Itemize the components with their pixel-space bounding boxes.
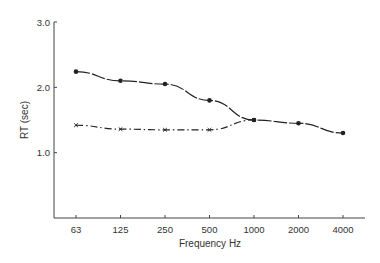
y-tick-label: 3.0	[37, 17, 50, 28]
y-tick-label: 2.0	[37, 82, 50, 93]
data-point-dot	[163, 82, 168, 87]
x-tick-label: 250	[157, 224, 173, 235]
axis-ticks: 1.02.03.063125250500100020004000	[37, 17, 354, 236]
data-series	[74, 69, 346, 135]
x-tick-label: 4000	[332, 224, 353, 235]
x-axis-label: Frequency Hz	[179, 238, 241, 249]
x-tick-label: 2000	[288, 224, 309, 235]
series-line-1	[76, 120, 254, 130]
x-tick-label: 500	[202, 224, 218, 235]
rt-frequency-chart: 1.02.03.063125250500100020004000 Frequen…	[0, 0, 380, 263]
x-tick-label: 125	[113, 224, 129, 235]
y-axis-label: RT (sec)	[19, 101, 30, 139]
x-tick-label: 63	[71, 224, 82, 235]
data-point-dot	[296, 121, 301, 126]
data-point-dot	[118, 79, 123, 84]
x-tick-label: 1000	[243, 224, 264, 235]
data-point-dot	[74, 69, 79, 74]
data-point-dot	[341, 131, 346, 136]
data-point-dot	[207, 98, 212, 103]
axes	[54, 22, 365, 218]
y-tick-label: 1.0	[37, 147, 50, 158]
